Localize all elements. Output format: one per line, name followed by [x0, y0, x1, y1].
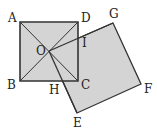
- geometry-diagram: A B C D O G F E I H: [0, 0, 157, 136]
- label-d: D: [81, 11, 91, 25]
- label-a: A: [7, 11, 17, 25]
- label-e: E: [73, 116, 82, 130]
- label-b: B: [7, 78, 16, 92]
- label-h: H: [49, 83, 59, 97]
- label-g: G: [109, 7, 119, 21]
- label-o: O: [36, 44, 46, 58]
- label-c: C: [81, 78, 90, 92]
- label-f: F: [144, 82, 152, 96]
- label-i: I: [82, 36, 87, 50]
